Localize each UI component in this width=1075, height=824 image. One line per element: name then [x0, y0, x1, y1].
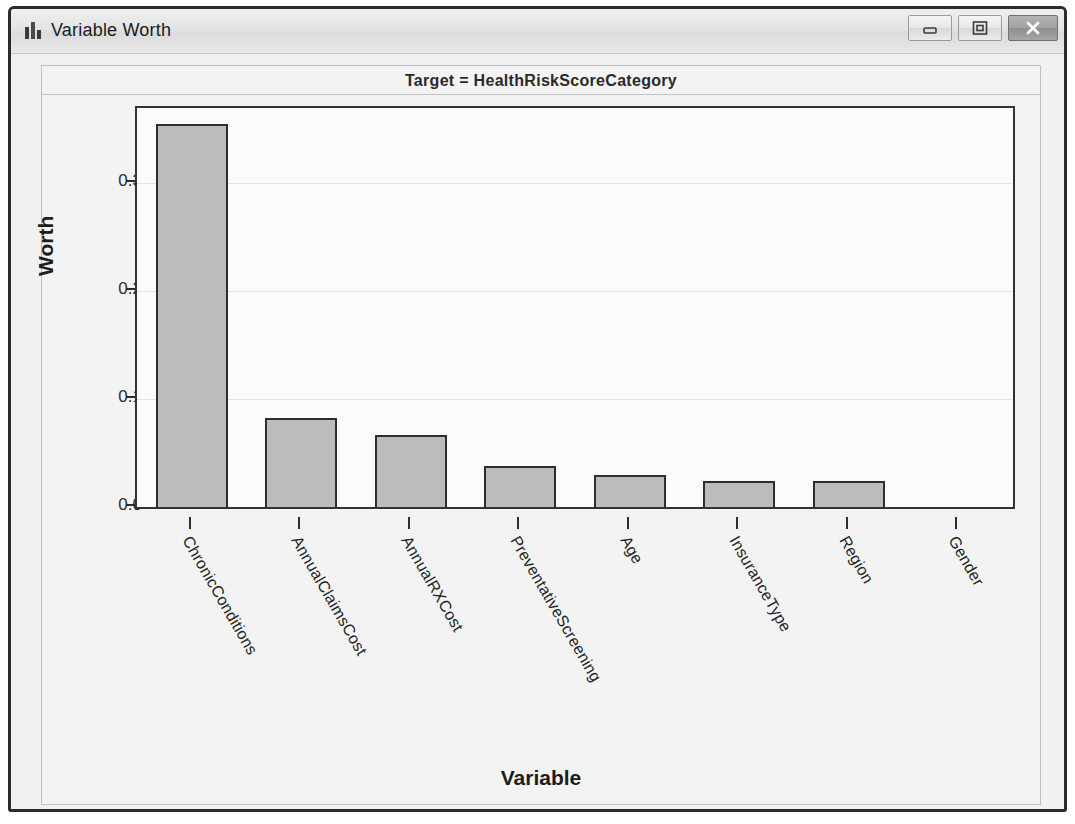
window-titlebar[interactable]: Variable Worth — [11, 9, 1064, 54]
bar[interactable] — [375, 435, 447, 507]
x-tick-label: AnnualClaimsCost — [288, 533, 371, 659]
bar-slot — [137, 108, 247, 507]
y-axis-label: Worth — [34, 216, 58, 276]
x-tick-mark — [627, 517, 629, 529]
bar-slot — [904, 108, 1014, 507]
bar-slot — [356, 108, 466, 507]
y-tick-label: 0.3 — [86, 171, 142, 191]
bar[interactable] — [594, 475, 666, 507]
x-axis-label: Variable — [42, 766, 1040, 790]
bar[interactable] — [813, 481, 885, 507]
chart-title-band: Target = HealthRiskScoreCategory — [42, 66, 1040, 95]
window-title: Variable Worth — [51, 20, 171, 41]
bar[interactable] — [156, 124, 228, 507]
bar[interactable] — [484, 466, 556, 507]
x-tick-label: InsuranceType — [726, 533, 795, 635]
bar-slot — [794, 108, 904, 507]
y-tick-label: 0.1 — [86, 387, 142, 407]
x-tick-mark — [189, 517, 191, 529]
x-tick-mark — [298, 517, 300, 529]
x-tick-label: Gender — [945, 533, 988, 589]
variable-worth-window: Variable Worth Target = HealthRiskScoreC… — [8, 6, 1067, 812]
bar-series — [137, 108, 1013, 507]
chart-frame: Target = HealthRiskScoreCategory Worth 0… — [41, 65, 1041, 805]
x-tick-label: ChronicConditions — [178, 533, 261, 658]
x-tick-mark — [955, 517, 957, 529]
bar[interactable] — [703, 481, 775, 507]
x-tick-mark — [846, 517, 848, 529]
bar[interactable] — [265, 418, 337, 508]
close-button[interactable] — [1008, 15, 1058, 41]
x-tick-mark — [736, 517, 738, 529]
maximize-button[interactable] — [958, 15, 1002, 41]
x-tick-label: Region — [835, 533, 877, 587]
x-tick-label: PreventativeScreening — [507, 533, 605, 685]
x-tick-mark — [408, 517, 410, 529]
bar-slot — [466, 108, 576, 507]
y-tick-label: 0.2 — [86, 279, 142, 299]
bar-slot — [247, 108, 357, 507]
x-tick-label: AnnualRXCost — [397, 533, 466, 635]
bar-slot — [685, 108, 795, 507]
y-tick-label: 0.0 — [86, 495, 142, 515]
x-tick-label: Age — [616, 533, 646, 567]
x-tick-mark — [517, 517, 519, 529]
bar-chart-icon — [25, 22, 43, 39]
chart-title: Target = HealthRiskScoreCategory — [405, 72, 677, 89]
plot-area — [135, 106, 1015, 509]
bar-slot — [575, 108, 685, 507]
minimize-button[interactable] — [908, 15, 952, 41]
